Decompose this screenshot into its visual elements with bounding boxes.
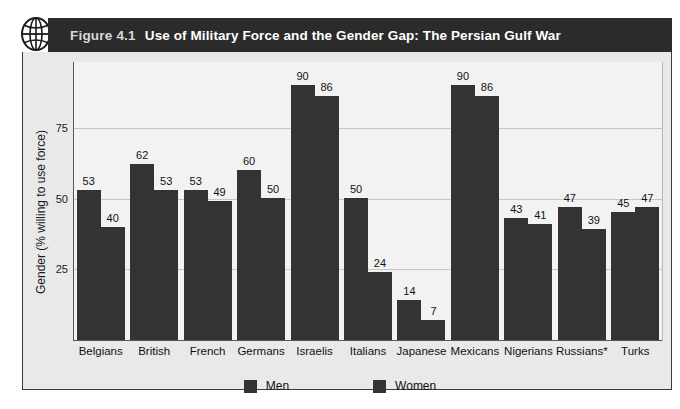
plot-right-edge [662,62,663,341]
legend-label-men: Men [266,379,289,393]
legend-item-men[interactable]: Men [244,379,289,393]
bar-british-women [154,190,178,340]
bar-russians-women [582,229,606,340]
y-tick-50: 50 [42,193,68,205]
bar-germans-men [237,170,261,340]
bar-germans-women [261,198,285,340]
bar-french-women [208,201,232,340]
bar-israelis-women [315,96,339,340]
bar-italians-men [344,198,368,340]
legend-item-women[interactable]: Women [373,379,436,393]
bar-nigerians-men [504,218,528,340]
y-tick-75: 75 [42,122,68,134]
legend-swatch-women [373,380,386,393]
bar-british-men [130,164,154,340]
bar-japanese-women [421,320,445,340]
bar-russians-men [558,207,582,340]
bar-mexicans-women [475,96,499,340]
y-axis-label-holder: Gender (% willing to use force) [18,60,38,340]
figure-container: Figure 4.1 Use of Military Force and the… [0,0,680,409]
y-axis-ticks: 75 50 25 [40,0,68,409]
page-title: Use of Military Force and the Gender Gap… [145,28,561,43]
bar-japanese-men [397,300,421,340]
bar-mexicans-men [451,85,475,340]
figure-title-banner: Figure 4.1 Use of Military Force and the… [48,18,672,52]
bar-nigerians-women [528,224,552,340]
figure-number: Figure 4.1 [70,28,136,43]
legend-label-women: Women [395,379,436,393]
plot-area [74,62,662,340]
bar-israelis-men [291,85,315,340]
legend-swatch-men [244,380,257,393]
bar-italians-women [368,272,392,340]
bar-turks-women [635,207,659,340]
bar-belgians-women [101,227,125,340]
y-axis-line [73,62,74,341]
x-axis-line [73,340,663,341]
bar-french-men [184,190,208,340]
bar-belgians-men [77,190,101,340]
y-tick-25: 25 [42,263,68,275]
legend: Men Women [0,374,680,398]
bars-layer [74,62,662,340]
bar-turks-men [611,212,635,340]
